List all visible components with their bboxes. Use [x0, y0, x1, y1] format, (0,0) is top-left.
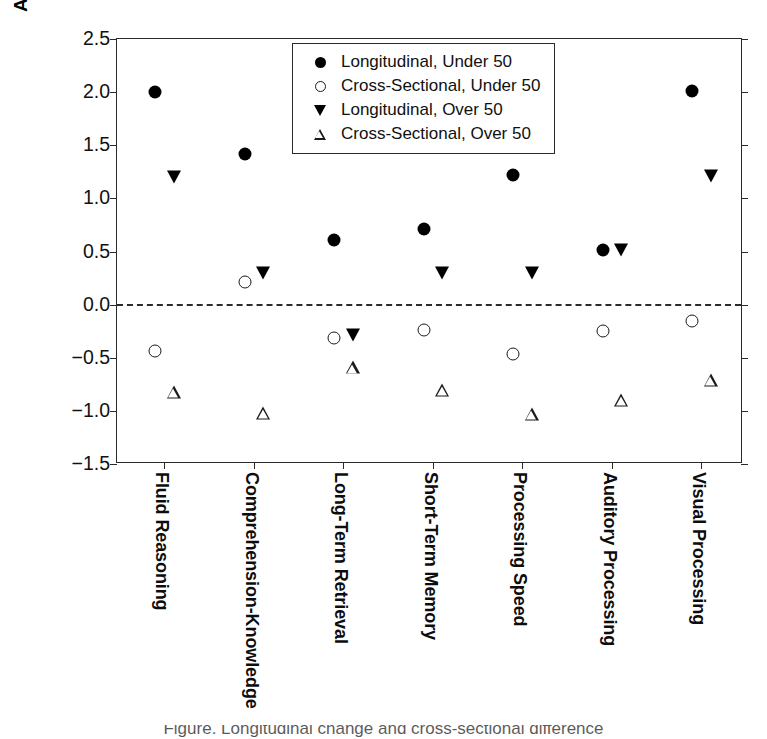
- legend: Longitudinal, Under 50Cross-Sectional, U…: [292, 43, 555, 154]
- data-point-open-circle: [149, 345, 162, 358]
- data-point-filled-triangle: [167, 171, 181, 184]
- x-tick-mark: [433, 462, 434, 469]
- legend-item-2[interactable]: Longitudinal, Over 50: [303, 98, 540, 122]
- legend-label: Longitudinal, Over 50: [337, 100, 503, 120]
- y-tick-mark: [110, 305, 117, 306]
- y-tick-mark-right: [741, 92, 748, 93]
- y-tick-mark: [110, 411, 117, 412]
- y-tick-mark-right: [741, 411, 748, 412]
- y-tick-mark-right: [741, 358, 748, 359]
- data-point-open-triangle: [167, 385, 181, 398]
- open-circle-icon: [303, 76, 337, 96]
- y-tick-mark: [110, 198, 117, 199]
- y-tick-mark-right: [741, 252, 748, 253]
- y-axis-title: Annual W-Score Difference/Change: [6, 0, 36, 68]
- data-point-filled-triangle: [704, 170, 718, 183]
- x-tick-label: Fluid Reasoning: [151, 472, 172, 611]
- y-tick-mark: [110, 252, 117, 253]
- legend-label: Longitudinal, Under 50: [337, 52, 512, 72]
- data-point-open-circle: [328, 331, 341, 344]
- plot-area: Longitudinal, Under 50Cross-Sectional, U…: [116, 38, 742, 463]
- data-point-filled-circle: [149, 86, 162, 99]
- y-tick-mark-right: [741, 145, 748, 146]
- y-tick-label: −1.0: [58, 398, 110, 421]
- y-tick-mark: [110, 39, 117, 40]
- y-tick-label: 2.0: [58, 80, 110, 103]
- x-tick-label: Comprehension-Knowledge: [241, 472, 262, 709]
- data-point-filled-triangle: [525, 266, 539, 279]
- x-tick-mark: [164, 462, 165, 469]
- data-point-filled-triangle: [614, 244, 628, 257]
- data-point-filled-triangle: [346, 329, 360, 342]
- y-tick-mark-right: [741, 464, 748, 465]
- figure-scatter-plot: Annual W-Score Difference/Change 2.52.01…: [0, 0, 767, 739]
- data-point-filled-circle: [328, 233, 341, 246]
- legend-item-1[interactable]: Cross-Sectional, Under 50: [303, 74, 540, 98]
- x-tick-label: Short-Term Memory: [420, 472, 441, 640]
- x-tick-label: Auditory Processing: [599, 472, 620, 646]
- y-tick-label: −1.5: [58, 452, 110, 475]
- legend-item-0[interactable]: Longitudinal, Under 50: [303, 50, 540, 74]
- x-tick-mark: [701, 462, 702, 469]
- x-tick-mark: [612, 462, 613, 469]
- data-point-filled-triangle: [435, 266, 449, 279]
- legend-label: Cross-Sectional, Under 50: [337, 76, 540, 96]
- data-point-open-triangle: [525, 408, 539, 421]
- data-point-open-circle: [417, 324, 430, 337]
- y-tick-mark: [110, 464, 117, 465]
- legend-item-3[interactable]: Cross-Sectional, Over 50: [303, 122, 540, 146]
- y-tick-label: −0.5: [58, 345, 110, 368]
- x-tick-label: Long-Term Retrieval: [330, 472, 351, 644]
- data-point-open-triangle: [435, 383, 449, 396]
- x-tick-mark: [522, 462, 523, 469]
- x-tick-mark: [254, 462, 255, 469]
- caption-text: Figure. Longitudinal change and cross-se…: [0, 725, 767, 739]
- data-point-open-triangle: [704, 374, 718, 387]
- data-point-open-triangle: [614, 394, 628, 407]
- y-tick-label: 0.0: [58, 292, 110, 315]
- data-point-open-circle: [507, 347, 520, 360]
- data-point-filled-circle: [238, 147, 251, 160]
- y-tick-mark: [110, 92, 117, 93]
- y-axis-tick-labels: 2.52.01.51.00.50.0−0.5−1.0−1.5: [50, 0, 110, 739]
- y-tick-mark-right: [741, 198, 748, 199]
- caption-sliver: Figure. Longitudinal change and cross-se…: [0, 725, 767, 739]
- data-point-filled-circle: [686, 85, 699, 98]
- y-tick-mark-right: [741, 305, 748, 306]
- data-point-open-circle: [238, 276, 251, 289]
- y-tick-label: 0.5: [58, 239, 110, 262]
- filled-triangle-icon: [303, 100, 337, 120]
- y-tick-label: 2.5: [58, 27, 110, 50]
- y-tick-label: 1.5: [58, 133, 110, 156]
- y-tick-mark-right: [741, 39, 748, 40]
- data-point-filled-circle: [596, 244, 609, 257]
- x-tick-mark: [343, 462, 344, 469]
- data-point-filled-triangle: [256, 266, 270, 279]
- y-tick-label: 1.0: [58, 186, 110, 209]
- filled-circle-icon: [303, 52, 337, 72]
- y-tick-mark: [110, 145, 117, 146]
- data-point-open-triangle: [256, 407, 270, 420]
- data-point-open-circle: [596, 325, 609, 338]
- zero-reference-line: [117, 304, 741, 306]
- x-tick-label: Processing Speed: [509, 472, 530, 626]
- data-point-filled-circle: [507, 169, 520, 182]
- y-tick-mark: [110, 358, 117, 359]
- x-tick-label: Visual Processing: [688, 472, 709, 625]
- data-point-open-circle: [686, 314, 699, 327]
- data-point-open-triangle: [346, 361, 360, 374]
- legend-label: Cross-Sectional, Over 50: [337, 124, 531, 144]
- open-triangle-icon: [303, 124, 337, 144]
- data-point-filled-circle: [417, 223, 430, 236]
